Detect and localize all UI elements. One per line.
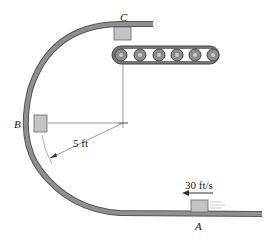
- label-a: A: [194, 220, 202, 232]
- block-c: [114, 27, 131, 40]
- label-radius: 5 ft: [73, 137, 88, 149]
- label-speed: 30 ft/s: [185, 179, 213, 191]
- block-a: [191, 200, 208, 212]
- conveyor-belt: [112, 46, 219, 64]
- motion-streaks: [210, 202, 225, 208]
- label-c: C: [120, 11, 128, 23]
- diagram-canvas: C B A 5 ft 30 ft/s: [0, 0, 273, 241]
- block-b: [34, 115, 47, 132]
- inner-guide-arc: [42, 135, 52, 164]
- label-b: B: [14, 118, 21, 130]
- radius-arrowhead: [50, 153, 57, 158]
